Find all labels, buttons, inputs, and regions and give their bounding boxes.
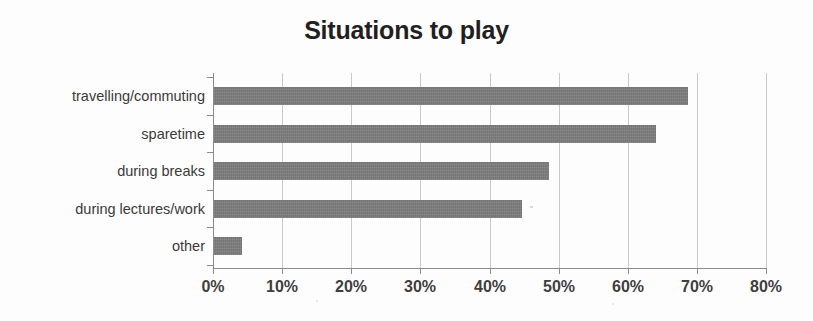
x-axis-tick-label: 80% bbox=[736, 278, 796, 296]
x-axis-tick-label: 40% bbox=[460, 278, 520, 296]
y-tick-mark bbox=[207, 152, 213, 153]
x-axis-tick-label: 0% bbox=[183, 278, 243, 296]
y-tick-mark bbox=[207, 265, 213, 266]
y-axis-category-label: other bbox=[0, 238, 205, 254]
bar bbox=[214, 162, 549, 180]
scan-speck bbox=[612, 303, 614, 305]
x-axis-tick-label: 60% bbox=[598, 278, 658, 296]
x-tick-mark bbox=[351, 268, 352, 274]
bar bbox=[214, 237, 242, 255]
y-tick-mark bbox=[207, 115, 213, 116]
x-tick-mark bbox=[697, 268, 698, 274]
chart-title: Situations to play bbox=[0, 16, 813, 45]
x-axis-tick-label: 10% bbox=[252, 278, 312, 296]
y-tick-mark bbox=[207, 77, 213, 78]
y-tick-mark bbox=[207, 227, 213, 228]
gridline bbox=[766, 73, 767, 268]
y-axis-category-label: during breaks bbox=[0, 163, 205, 179]
x-tick-mark bbox=[628, 268, 629, 274]
x-axis-tick-label: 30% bbox=[390, 278, 450, 296]
y-tick-mark bbox=[207, 190, 213, 191]
chart-screenshot: Situations to play travelling/commutings… bbox=[0, 0, 813, 321]
x-axis-tick-label: 50% bbox=[529, 278, 589, 296]
x-tick-mark bbox=[282, 268, 283, 274]
scan-speck bbox=[530, 206, 533, 208]
y-axis-category-label: during lectures/work bbox=[0, 201, 205, 217]
bar bbox=[214, 125, 656, 143]
x-tick-mark bbox=[766, 268, 767, 274]
x-tick-mark bbox=[559, 268, 560, 274]
y-axis-category-label: sparetime bbox=[0, 126, 205, 142]
x-tick-mark bbox=[213, 268, 214, 274]
bar bbox=[214, 200, 522, 218]
scan-speck bbox=[316, 300, 318, 302]
x-tick-mark bbox=[420, 268, 421, 274]
x-tick-mark bbox=[490, 268, 491, 274]
y-axis-category-label: travelling/commuting bbox=[0, 88, 205, 104]
x-axis-tick-label: 20% bbox=[321, 278, 381, 296]
gridline bbox=[697, 73, 698, 268]
bar bbox=[214, 87, 688, 105]
x-axis-tick-label: 70% bbox=[667, 278, 727, 296]
